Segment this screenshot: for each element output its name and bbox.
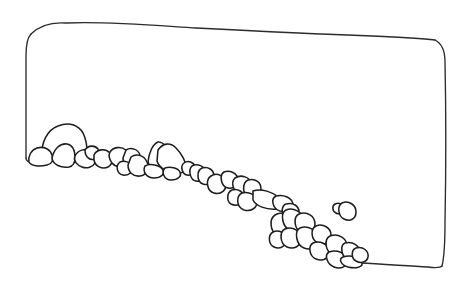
drawing-frame [26, 22, 446, 267]
frame-bottom-edge [360, 263, 442, 268]
rock-pile-group: large left bouldercorner blockwedge ston… [29, 124, 368, 268]
rock-02: corner block [29, 147, 53, 166]
frame-top-edge [31, 22, 435, 40]
rock-28: detached pebble large [339, 202, 356, 220]
sketch-canvas: Hand-drawn rock wall sketch pen line dra… [0, 0, 473, 289]
rock-41: final tip pebble [352, 248, 368, 263]
rock-14: slim sliver [163, 167, 180, 180]
frame-right-edge [435, 40, 446, 266]
line-drawing: large left bouldercorner blockwedge ston… [0, 0, 473, 289]
frame-left-edge [26, 34, 31, 158]
